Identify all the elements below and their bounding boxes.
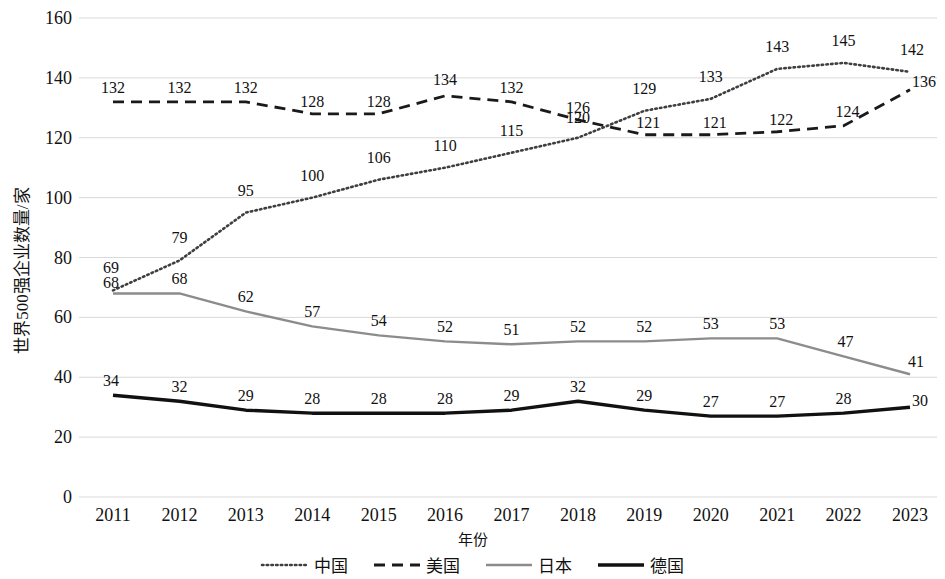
- data-label: 29: [238, 388, 254, 404]
- data-label: 52: [636, 319, 652, 335]
- gray-solid-line-icon: [486, 559, 532, 571]
- x-tick-label-2021: 2021: [759, 505, 795, 525]
- data-label: 41: [908, 354, 924, 370]
- legend-label: 中国: [314, 552, 348, 577]
- data-label: 27: [703, 394, 719, 410]
- data-label: 52: [570, 319, 586, 335]
- black-solid-line-icon: [598, 559, 644, 571]
- x-tick-label-2017: 2017: [494, 505, 530, 525]
- dotted-line-icon: [262, 559, 308, 571]
- x-tick-label-2020: 2020: [693, 505, 729, 525]
- data-label: 79: [171, 230, 187, 246]
- data-label: 110: [433, 138, 456, 154]
- line-chart: 世界500强企业数量/家 160140120100806040200 69799…: [0, 0, 945, 579]
- data-label: 100: [300, 168, 324, 184]
- series-line-中国: [113, 63, 910, 291]
- data-label: 51: [504, 322, 520, 338]
- x-tick-label-2013: 2013: [228, 505, 264, 525]
- data-label: 106: [367, 150, 391, 166]
- data-label: 28: [437, 391, 453, 407]
- data-label: 134: [433, 72, 457, 88]
- data-label: 133: [699, 69, 723, 85]
- data-label: 27: [769, 394, 785, 410]
- data-label: 54: [371, 313, 387, 329]
- data-label: 47: [838, 334, 854, 350]
- legend-label: 日本: [538, 552, 572, 577]
- data-label: 29: [504, 388, 520, 404]
- legend-item-中国[interactable]: 中国: [262, 552, 348, 577]
- x-tick-label-2016: 2016: [427, 505, 463, 525]
- data-label: 122: [769, 112, 793, 128]
- data-label: 121: [703, 115, 727, 131]
- data-label: 136: [912, 74, 936, 90]
- x-tick-label-2018: 2018: [560, 505, 596, 525]
- legend-label: 美国: [426, 552, 460, 577]
- data-label: 142: [900, 42, 924, 58]
- x-tick-label-2011: 2011: [95, 505, 130, 525]
- x-tick-label-2022: 2022: [826, 505, 862, 525]
- legend-label: 德国: [650, 552, 684, 577]
- data-label: 29: [636, 388, 652, 404]
- data-label: 145: [832, 33, 856, 49]
- chart-legend: 中国美国日本德国: [0, 552, 945, 577]
- data-label: 128: [367, 94, 391, 110]
- legend-item-美国[interactable]: 美国: [374, 552, 460, 577]
- data-label: 143: [765, 39, 789, 55]
- data-label: 68: [103, 275, 119, 291]
- data-label: 132: [167, 80, 191, 96]
- data-label: 132: [101, 80, 125, 96]
- data-label: 53: [769, 316, 785, 332]
- data-label: 121: [636, 115, 660, 131]
- data-label: 34: [103, 373, 119, 389]
- data-label: 132: [234, 80, 258, 96]
- data-label: 57: [304, 304, 320, 320]
- dashed-line-icon: [374, 559, 420, 571]
- data-label: 128: [300, 94, 324, 110]
- x-tick-label-2023: 2023: [892, 505, 928, 525]
- data-label: 62: [238, 289, 254, 305]
- data-label: 124: [836, 104, 860, 120]
- data-label: 52: [437, 319, 453, 335]
- data-label: 95: [238, 183, 254, 199]
- data-label: 132: [500, 80, 524, 96]
- plot-area: [0, 0, 945, 579]
- x-tick-label-2012: 2012: [161, 505, 197, 525]
- data-label: 126: [566, 100, 590, 116]
- legend-item-日本[interactable]: 日本: [486, 552, 572, 577]
- data-label: 30: [912, 393, 928, 409]
- x-tick-label-2015: 2015: [361, 505, 397, 525]
- data-label: 129: [632, 81, 656, 97]
- x-tick-label-2014: 2014: [294, 505, 330, 525]
- data-label: 28: [836, 391, 852, 407]
- data-label: 68: [171, 271, 187, 287]
- x-axis-title: 年份: [0, 528, 945, 549]
- data-label: 32: [171, 379, 187, 395]
- data-label: 28: [304, 391, 320, 407]
- data-label: 53: [703, 316, 719, 332]
- data-label: 115: [500, 123, 523, 139]
- data-label: 32: [570, 379, 586, 395]
- legend-item-德国[interactable]: 德国: [598, 552, 684, 577]
- x-tick-label-2019: 2019: [626, 505, 662, 525]
- data-label: 28: [371, 391, 387, 407]
